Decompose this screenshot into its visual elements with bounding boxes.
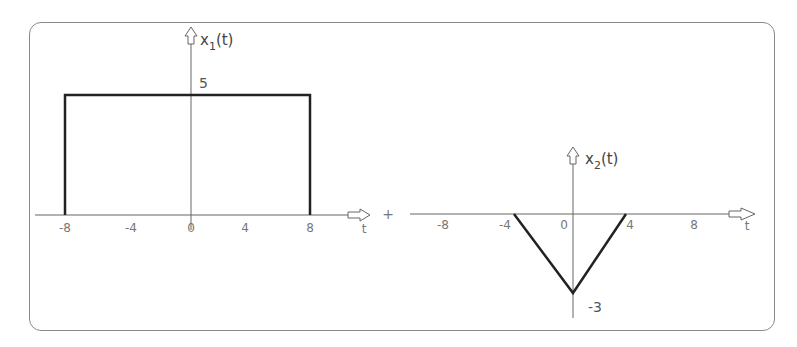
x-axis-arrow-icon	[348, 209, 370, 221]
x2-signal-triangle	[514, 214, 626, 293]
tick-label: -8	[437, 218, 449, 232]
x1-signal-pulse	[65, 95, 310, 215]
level-label: -3	[588, 299, 602, 315]
plot-x2: x2(t) -3 -8 -4 0 4 8 t	[410, 147, 755, 318]
tick-label: -4	[499, 218, 511, 232]
y-axis-arrow-icon	[567, 147, 579, 164]
y-axis-label: x1(t)	[200, 31, 233, 53]
tick-label: -4	[125, 221, 137, 235]
x-axis-label: t	[745, 219, 750, 233]
y-axis-label: x2(t)	[585, 150, 618, 172]
signals-diagram: x1(t) 5 -8 -4 0 4 8 t + x2(t) -3 -8 -4 0…	[0, 0, 797, 347]
tick-label: 0	[187, 221, 195, 235]
plus-operator: +	[382, 206, 394, 222]
tick-label: 0	[560, 218, 568, 232]
tick-label: -8	[59, 221, 71, 235]
plot-x1: x1(t) 5 -8 -4 0 4 8 t	[35, 27, 370, 236]
tick-label: 8	[306, 221, 314, 235]
x-axis-label: t	[362, 222, 367, 236]
y-axis-arrow-icon	[185, 27, 197, 44]
tick-label: 8	[690, 218, 698, 232]
level-label: 5	[199, 75, 208, 91]
tick-label: 4	[241, 221, 249, 235]
x-axis-arrow-icon	[729, 208, 755, 220]
tick-label: 4	[626, 218, 634, 232]
